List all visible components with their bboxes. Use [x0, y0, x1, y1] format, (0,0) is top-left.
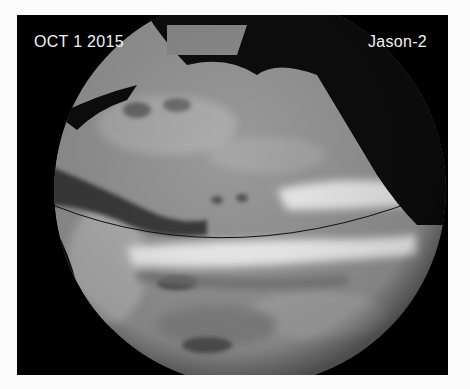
satellite-label: Jason-2 — [368, 33, 427, 51]
date-label: OCT 1 2015 — [34, 33, 124, 51]
globe-visualization — [17, 15, 448, 375]
image-panel: OCT 1 2015 Jason-2 — [17, 15, 448, 375]
